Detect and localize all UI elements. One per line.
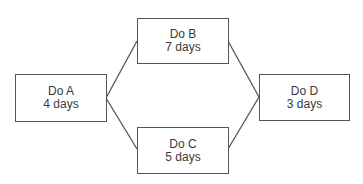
task-duration: 3 days	[287, 98, 322, 111]
edge-a-to-c	[106, 98, 137, 149]
activity-network-diagram: Do A 4 days Do B 7 days Do C 5 days Do D…	[0, 0, 363, 184]
edge-c-to-d	[228, 97, 259, 149]
task-node-d: Do D 3 days	[259, 74, 350, 121]
task-duration: 5 days	[165, 151, 200, 164]
task-title: Do D	[291, 85, 318, 98]
task-title: Do C	[169, 138, 196, 151]
task-duration: 7 days	[165, 41, 200, 54]
task-duration: 4 days	[43, 98, 78, 111]
edge-b-to-d	[228, 41, 259, 97]
task-node-b: Do B 7 days	[137, 18, 229, 64]
edge-a-to-b	[106, 41, 137, 98]
task-node-a: Do A 4 days	[15, 74, 107, 122]
task-node-c: Do C 5 days	[137, 127, 229, 174]
